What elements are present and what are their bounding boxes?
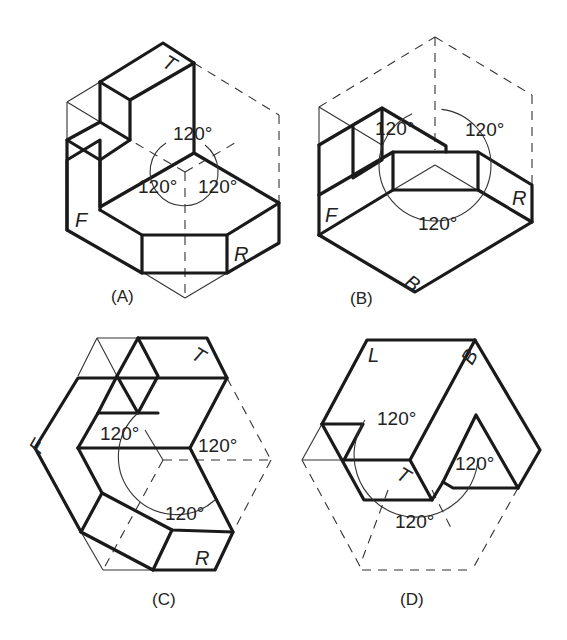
- angle-label: 120°: [100, 423, 139, 444]
- face-label-front: F: [24, 434, 50, 457]
- angle-label: 120°: [173, 123, 212, 144]
- face-label-front: F: [325, 204, 339, 226]
- face-label-right: R: [512, 187, 526, 209]
- angle-label: 120°: [377, 408, 416, 429]
- angle-label: 120°: [465, 119, 504, 140]
- panel-caption: (D): [400, 590, 424, 609]
- panel-b: 120° 120° 120° F R B (B): [319, 37, 532, 308]
- panel-c: 120° 120° 120° T F R (C): [24, 338, 271, 609]
- angle-label: 120°: [375, 118, 414, 139]
- panel-caption: (A): [111, 287, 134, 306]
- isometric-axes-figure: 120° 120° 120° T F R (A) 120° 120° 120° …: [0, 0, 567, 640]
- angle-label: 120°: [455, 453, 494, 474]
- angle-label: 120°: [138, 176, 177, 197]
- angle-label: 120°: [198, 435, 237, 456]
- panel-caption: (B): [350, 289, 373, 308]
- face-label-bottom: B: [401, 270, 425, 296]
- face-label-top: T: [393, 462, 416, 488]
- panel-d: 120° 120° 120° L B T (D): [302, 340, 540, 609]
- panel-a: 120° 120° 120° T F R (A): [67, 43, 279, 306]
- face-label-right: R: [195, 547, 209, 569]
- angle-label: 120°: [198, 176, 237, 197]
- face-label-top: T: [188, 342, 211, 368]
- face-label-front: F: [75, 209, 89, 231]
- angle-label: 120°: [165, 503, 204, 524]
- angle-label: 120°: [395, 511, 434, 532]
- face-label-right: R: [234, 243, 248, 265]
- panel-caption: (C): [152, 590, 176, 609]
- angle-label: 120°: [418, 213, 457, 234]
- face-label-left: L: [368, 344, 379, 366]
